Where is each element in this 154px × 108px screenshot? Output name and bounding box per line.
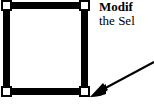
callout-label-line2: the Sel: [99, 14, 154, 28]
selection-edge-bottom: [3, 88, 88, 95]
selection-edge-right: [81, 2, 88, 95]
selection-edge-top: [3, 2, 88, 9]
callout-label: Modif the Sel: [99, 0, 154, 28]
selection-bounding-box[interactable]: [3, 2, 88, 95]
selection-handle-bottom-left[interactable]: [1, 86, 12, 97]
selection-handle-top-left[interactable]: [1, 0, 12, 11]
leader-arrow-icon: [86, 50, 154, 102]
selection-handle-bottom-right[interactable]: [79, 86, 90, 97]
figure-canvas: Modif the Sel: [0, 0, 154, 108]
callout-label-line1: Modif: [99, 0, 154, 14]
selection-handle-top-right[interactable]: [79, 0, 90, 11]
selection-edge-left: [3, 2, 10, 95]
